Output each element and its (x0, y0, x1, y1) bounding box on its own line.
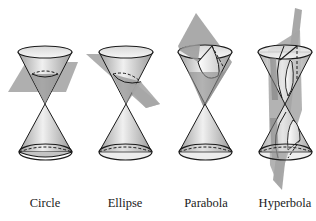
lower-nappe (19, 104, 72, 152)
upper-rim (18, 46, 72, 58)
upper-rim (258, 45, 312, 59)
upper-rim (99, 46, 153, 58)
label-parabola: Parabola (166, 196, 246, 211)
upper-nappe (258, 52, 312, 104)
ellipse-panel (86, 46, 160, 160)
label-circle: Circle (5, 196, 85, 211)
parabola-panel (178, 13, 232, 160)
label-ellipse: Ellipse (85, 196, 165, 211)
hyperbola-panel (258, 8, 312, 190)
circle-panel (8, 46, 78, 160)
conic-sections-diagram: Circle Ellipse Parabola Hyperbola (0, 0, 316, 221)
label-hyperbola: Hyperbola (245, 196, 316, 211)
